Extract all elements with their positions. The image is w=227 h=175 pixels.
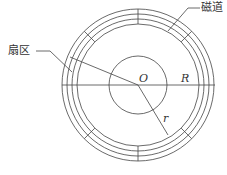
inner-radius-line: [138, 85, 168, 135]
disk-diagram: [0, 0, 227, 175]
sector-label: 扇区: [8, 45, 30, 56]
center-label: O: [139, 73, 148, 84]
track-leader-line: [168, 8, 200, 31]
track-label: 磁道: [201, 2, 223, 13]
sector-radius-line: [70, 57, 138, 85]
sector-leader-line: [36, 51, 72, 72]
outer-radius-label: R: [181, 73, 189, 84]
inner-radius-label: r: [163, 113, 168, 124]
